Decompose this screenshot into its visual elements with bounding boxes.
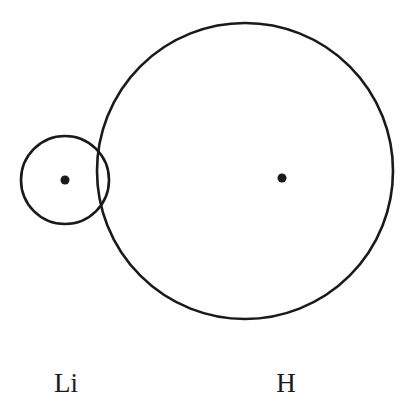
- lih-diagram: [0, 0, 410, 416]
- h-label: H: [276, 370, 296, 397]
- h-nucleus-dot: [278, 174, 287, 183]
- li-label: Li: [54, 370, 78, 397]
- li-nucleus-dot: [61, 176, 70, 185]
- h-atom-circle: [97, 23, 393, 319]
